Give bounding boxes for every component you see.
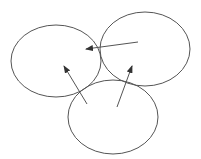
arrow-bottom-to-right	[117, 66, 132, 107]
arrow-bottom-to-left	[64, 66, 87, 104]
arrow-right-to-left	[86, 42, 138, 49]
ellipse-group	[11, 12, 190, 154]
ellipse-right	[100, 12, 190, 86]
diagram-canvas	[0, 0, 201, 159]
ellipse-bottom	[68, 80, 158, 154]
